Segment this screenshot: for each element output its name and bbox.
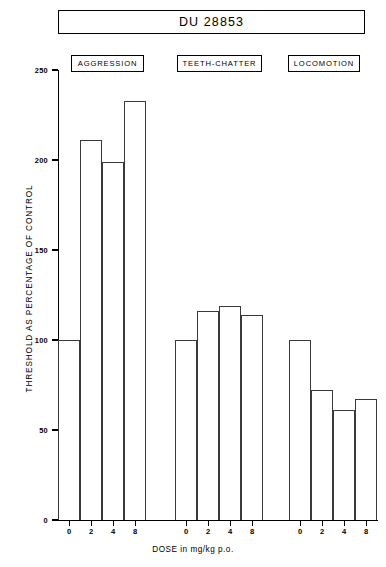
x-tick-mark [300, 521, 301, 526]
y-tick-label: 200 [8, 156, 48, 165]
group-label-teeth-chatter: TEETH-CHATTER [183, 59, 257, 68]
x-tick-mark [91, 521, 92, 526]
y-tick-mark [52, 249, 58, 250]
bar [102, 162, 124, 520]
x-tick-mark [69, 521, 70, 526]
x-tick-label: 4 [337, 527, 351, 536]
x-tick-mark [208, 521, 209, 526]
bar [124, 101, 146, 520]
bar [241, 315, 263, 520]
chart-title-box: DU 28853 [58, 10, 365, 34]
x-tick-mark [135, 521, 136, 526]
bar [333, 410, 355, 520]
bar [80, 140, 102, 520]
x-tick-label: 2 [84, 527, 98, 536]
x-tick-mark [252, 521, 253, 526]
x-tick-label: 0 [293, 527, 307, 536]
x-tick-mark [322, 521, 323, 526]
bar [175, 340, 197, 520]
group-label-box-teeth-chatter: TEETH-CHATTER [177, 55, 262, 72]
y-tick-label: 250 [8, 66, 48, 75]
x-tick-label: 2 [201, 527, 215, 536]
x-tick-mark [344, 521, 345, 526]
group-label-aggression: AGGRESSION [78, 59, 138, 68]
x-tick-label: 8 [128, 527, 142, 536]
bar [58, 340, 80, 520]
chart-figure: DU 28853 AGGRESSION TEETH-CHATTER LOCOMO… [0, 0, 386, 567]
bar [219, 306, 241, 520]
bar [355, 399, 377, 520]
group-label-box-aggression: AGGRESSION [71, 55, 144, 72]
chart-title: DU 28853 [179, 15, 244, 29]
bar [289, 340, 311, 520]
x-tick-mark [366, 521, 367, 526]
x-tick-mark [186, 521, 187, 526]
x-tick-mark [230, 521, 231, 526]
bar [311, 390, 333, 520]
x-tick-label: 0 [62, 527, 76, 536]
x-axis-label: DOSE in mg/kg p.o. [0, 545, 386, 554]
x-tick-label: 2 [315, 527, 329, 536]
x-tick-label: 8 [359, 527, 373, 536]
x-tick-mark [113, 521, 114, 526]
group-label-box-locomotion: LOCOMOTION [288, 55, 360, 72]
group-label-locomotion: LOCOMOTION [294, 59, 354, 68]
x-tick-label: 0 [179, 527, 193, 536]
y-tick-mark [52, 69, 58, 70]
x-tick-label: 4 [223, 527, 237, 536]
y-tick-label: 0 [8, 516, 48, 525]
x-tick-label: 8 [245, 527, 259, 536]
y-tick-label: 50 [8, 426, 48, 435]
bar [197, 311, 219, 520]
y-tick-mark [52, 159, 58, 160]
x-axis-line [58, 520, 378, 521]
y-axis-label: THRESHOLD AS PERCENTAGE OF CONTROL [25, 169, 34, 409]
x-tick-label: 4 [106, 527, 120, 536]
